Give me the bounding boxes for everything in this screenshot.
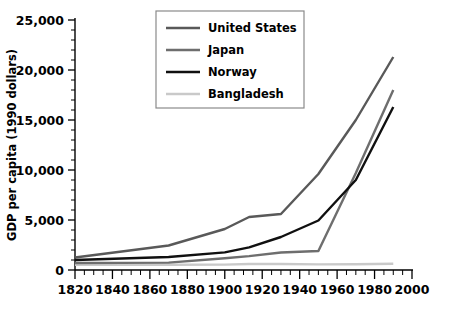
y-axis-title: GDP per capita (1990 dollars): [5, 49, 19, 241]
y-axis: 05,00010,00015,00020,00025,000: [16, 13, 75, 278]
legend-label-united-states: United States: [208, 21, 297, 35]
x-axis: 1820184018601880190019201940196019802000: [58, 270, 430, 297]
gdp-per-capita-line-chart: 05,00010,00015,00020,00025,000 182018401…: [0, 0, 463, 311]
series-line-norway: [75, 107, 393, 260]
y-tick-label: 0: [55, 263, 64, 278]
x-tick-label: 1840: [95, 282, 130, 297]
legend-label-japan: Japan: [207, 43, 244, 57]
y-tick-label: 10,000: [16, 163, 65, 178]
x-tick-label: 1860: [132, 282, 167, 297]
x-tick-label: 1920: [245, 282, 280, 297]
legend-label-bangladesh: Bangladesh: [208, 87, 284, 101]
y-tick-label: 25,000: [16, 13, 65, 28]
y-tick-label: 15,000: [16, 113, 65, 128]
x-tick-label: 1940: [282, 282, 317, 297]
x-tick-label: 1820: [58, 282, 93, 297]
x-tick-label: 1880: [170, 282, 205, 297]
series-line-japan: [75, 90, 393, 263]
x-tick-label: 1980: [357, 282, 392, 297]
chart-legend: United StatesJapanNorwayBangladesh: [156, 11, 304, 108]
chart-svg: 05,00010,00015,00020,00025,000 182018401…: [0, 0, 463, 311]
y-tick-label: 5,000: [24, 213, 64, 228]
x-tick-label: 2000: [395, 282, 430, 297]
legend-label-norway: Norway: [208, 65, 257, 79]
y-tick-label: 20,000: [16, 63, 65, 78]
x-tick-label: 1900: [207, 282, 242, 297]
x-tick-label: 1960: [320, 282, 355, 297]
